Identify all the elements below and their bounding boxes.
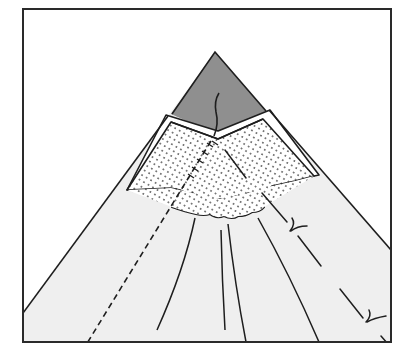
folding-diagram — [0, 0, 410, 362]
diagram-canvas — [0, 0, 410, 362]
